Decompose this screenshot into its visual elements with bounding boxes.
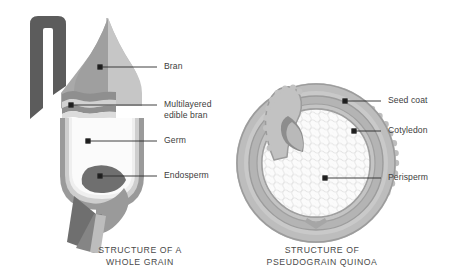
label-germ: Germ — [164, 135, 186, 146]
grain-husk-hook — [30, 16, 66, 119]
label-perisperm: Perisperm — [388, 172, 428, 183]
diagram-figure: Bran Multilayered edible bran Germ Endos… — [0, 0, 462, 279]
diagram-artwork — [0, 0, 462, 279]
whole-grain-illustration — [30, 16, 144, 254]
label-cotyledon: Cotyledon — [388, 125, 428, 136]
label-multilayered-edible-bran: Multilayered edible bran — [164, 99, 212, 122]
label-endosperm: Endosperm — [164, 170, 209, 181]
label-bran: Bran — [164, 61, 183, 72]
caption-quinoa: STRUCTURE OF PSEUDOGRAIN QUINOA — [242, 245, 402, 269]
caption-whole-grain: STRUCTURE OF A WHOLE GRAIN — [70, 245, 210, 269]
label-seed-coat: Seed coat — [388, 95, 428, 106]
quinoa-illustration — [236, 83, 399, 243]
